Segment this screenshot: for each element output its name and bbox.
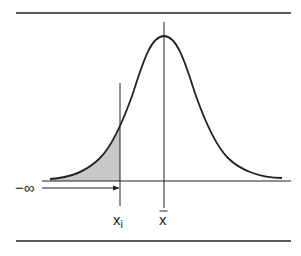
xi-label: xi: [113, 211, 123, 230]
shaded-area: [50, 124, 120, 181]
arrowhead-icon: [113, 186, 120, 191]
mean-label: x: [159, 211, 167, 228]
normal-curve-diagram: −∞ xi x: [0, 0, 301, 256]
neg-infinity-label: −∞: [15, 179, 35, 196]
bell-curve: [50, 36, 282, 179]
